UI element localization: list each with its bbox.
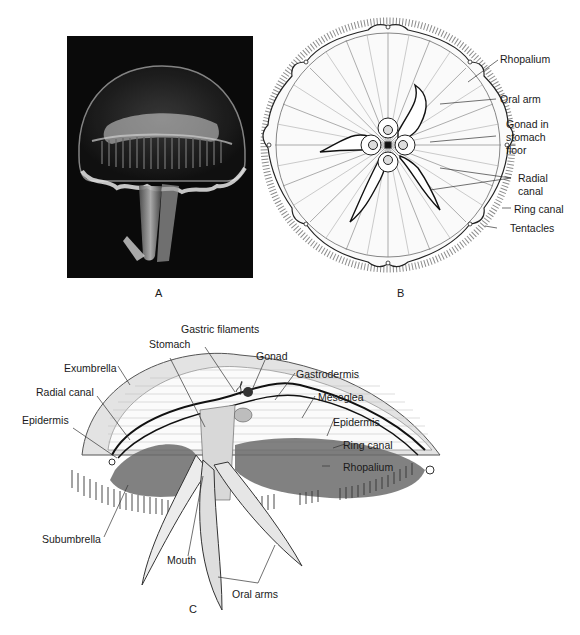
radial-canals bbox=[275, 33, 501, 257]
label-stomach: Stomach bbox=[149, 338, 190, 350]
label-oral-arm: Oral arm bbox=[500, 93, 541, 105]
jellyfish-photograph bbox=[67, 36, 253, 278]
label-mesoglea: Mesoglea bbox=[318, 391, 364, 403]
label-radial-canal-line2: canal bbox=[518, 185, 543, 197]
label-mouth: Mouth bbox=[167, 554, 196, 566]
panel-c-cross-section bbox=[72, 353, 440, 610]
label-oral-arms: Oral arms bbox=[232, 588, 278, 600]
panel-b-letter: B bbox=[397, 287, 404, 299]
label-tentacles: Tentacles bbox=[510, 222, 554, 234]
label-subumbrella: Subumbrella bbox=[42, 533, 101, 545]
label-epidermis-right: Epidermis bbox=[333, 416, 380, 428]
label-gonad-c: Gonad bbox=[256, 350, 288, 362]
panel-c-letter: C bbox=[189, 603, 197, 615]
label-gonad-line3: floor bbox=[506, 144, 526, 156]
label-rhopalium-b: Rhopalium bbox=[500, 53, 550, 65]
label-gastrodermis: Gastrodermis bbox=[296, 368, 359, 380]
label-exumbrella: Exumbrella bbox=[64, 362, 117, 374]
gonads-b bbox=[361, 118, 415, 172]
label-rhopalium-c: Rhopalium bbox=[343, 461, 393, 473]
label-radial-canal-c: Radial canal bbox=[36, 386, 94, 398]
label-gonad-line2: stomach bbox=[506, 131, 546, 143]
label-gastric-filaments: Gastric filaments bbox=[181, 323, 259, 335]
label-epidermis-left: Epidermis bbox=[22, 414, 69, 426]
label-ring-canal-b: Ring canal bbox=[514, 203, 564, 215]
label-gonad-line1: Gonad in bbox=[506, 118, 549, 130]
label-ring-canal-c: Ring canal bbox=[343, 439, 393, 451]
bell-disc bbox=[263, 21, 513, 269]
jellyfish-photo-render bbox=[67, 36, 253, 278]
label-radial-canal-line1: Radial bbox=[518, 172, 548, 184]
panel-a-letter: A bbox=[155, 287, 162, 299]
oral-arms-b bbox=[320, 85, 440, 222]
